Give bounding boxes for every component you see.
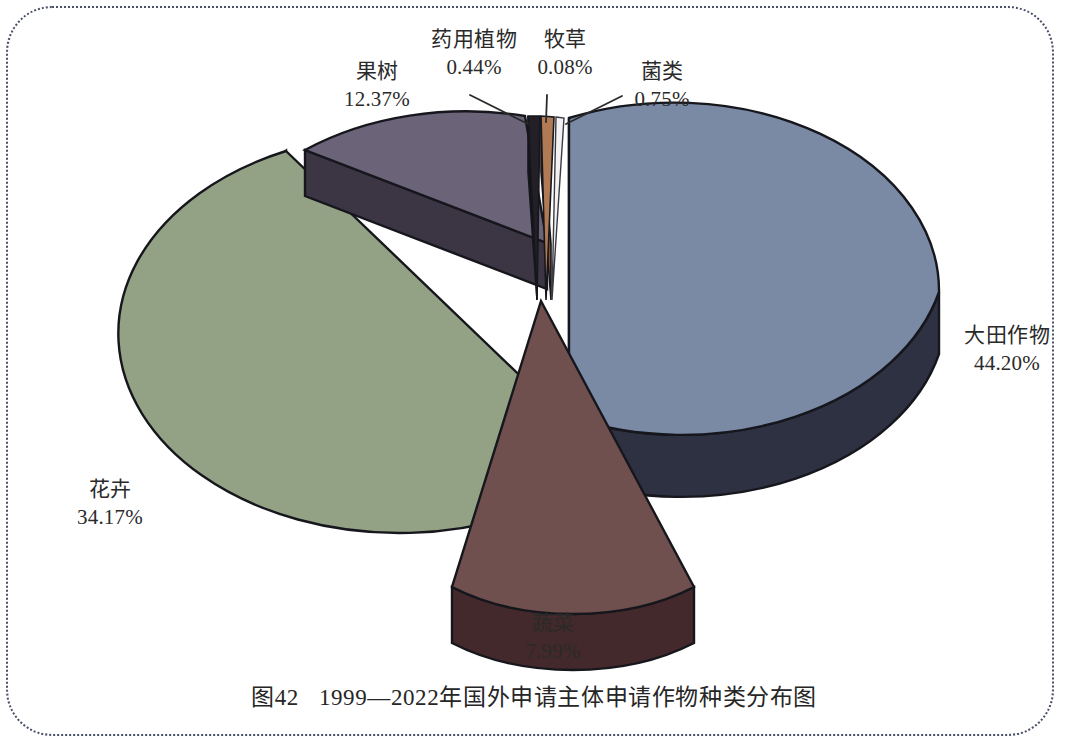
figure-caption-number: 图42 xyxy=(251,685,299,710)
pie-label-junlei-category: 菌类 xyxy=(604,58,720,86)
pie-label-junlei-percent: 0.75% xyxy=(604,86,720,114)
figure-caption-text: 1999—2022年国外申请主体申请作物种类分布图 xyxy=(319,685,817,710)
pie-chart: 果树 12.37% 药用植物 0.44% 牧草 0.08% 菌类 0.75% 大… xyxy=(0,0,1068,750)
leader-line-mucao xyxy=(546,95,547,122)
pie-label-datian-category: 大田作物 xyxy=(948,322,1066,350)
pie-slice-datian[interactable] xyxy=(569,103,939,497)
pie-slice-junlei-top xyxy=(552,117,564,300)
pie-label-datian-percent: 44.20% xyxy=(948,350,1066,378)
pie-label-guoshu-percent: 12.37% xyxy=(302,86,452,114)
pie-label-huahui-percent: 34.17% xyxy=(48,504,172,532)
pie-label-shucai: 蔬菜 7.99% xyxy=(480,610,626,665)
pie-label-huahui-category: 花卉 xyxy=(48,476,172,504)
pie-label-mucao-category: 牧草 xyxy=(508,26,622,54)
pie-slice-junlei[interactable] xyxy=(552,117,564,300)
pie-label-shucai-percent: 7.99% xyxy=(480,638,626,666)
pie-label-junlei: 菌类 0.75% xyxy=(604,58,720,113)
pie-label-shucai-category: 蔬菜 xyxy=(480,610,626,638)
figure-caption: 图421999—2022年国外申请主体申请作物种类分布图 xyxy=(0,678,1068,712)
pie-label-huahui: 花卉 34.17% xyxy=(48,476,172,531)
pie-label-datian: 大田作物 44.20% xyxy=(948,322,1066,377)
